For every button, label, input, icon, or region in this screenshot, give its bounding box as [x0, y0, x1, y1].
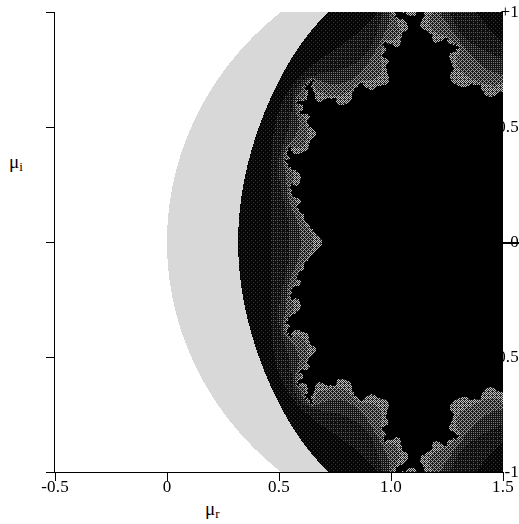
y-axis-tick-label: 0.5 — [475, 118, 519, 135]
y-axis-tick-label: -0.5 — [475, 348, 519, 365]
y-axis-tick — [46, 357, 55, 358]
mandelbrot-escape-time-plot — [55, 12, 503, 472]
y-axis-tick-label: +1 — [475, 3, 519, 20]
y-axis-title: μi — [9, 152, 23, 173]
x-axis-tick-label: 1.0 — [356, 478, 426, 495]
x-axis-title: μr — [205, 499, 220, 520]
y-axis-title-subscript: i — [19, 159, 23, 174]
x-axis-tick-label: -0.5 — [20, 478, 90, 495]
fractal-figure: +10.50-0.5-1 -0.500.51.01.5 μi μr — [0, 0, 519, 524]
right-edge-pointer-arrow-icon — [484, 238, 492, 248]
y-axis-tick — [46, 12, 55, 13]
x-axis-tick-label: 0 — [132, 478, 202, 495]
x-axis-tick-label: 1.5 — [468, 478, 519, 495]
x-axis-title-subscript: r — [215, 506, 219, 521]
plot-area — [55, 12, 503, 472]
y-axis-title-symbol: μ — [9, 151, 19, 172]
y-axis-tick — [46, 127, 55, 128]
x-axis-tick-label: 0.5 — [244, 478, 314, 495]
x-axis-title-symbol: μ — [205, 498, 215, 519]
y-axis-tick — [46, 242, 55, 243]
y-axis-tick — [46, 472, 55, 473]
